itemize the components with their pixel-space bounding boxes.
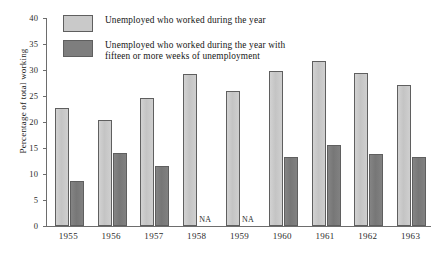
- legend-label: Unemployed who worked during the year wi…: [105, 40, 285, 61]
- x-tick-label-1959: 1959: [220, 232, 260, 241]
- bar-1955-fifteen-or-more-weeks: [70, 181, 84, 226]
- na-label-1959: NA: [242, 216, 254, 224]
- x-tick-label-1962: 1962: [348, 232, 388, 241]
- bar-1956-worked-during-year: [98, 120, 112, 226]
- y-tick-label: 20: [0, 118, 38, 127]
- bar-group-1963: [397, 18, 426, 226]
- y-tick-mark: [43, 226, 47, 227]
- legend-item-1: Unemployed who worked during the year: [63, 15, 285, 32]
- y-tick-label: 25: [0, 92, 38, 101]
- x-tick-label-1960: 1960: [262, 232, 302, 241]
- legend-swatch-dark: [63, 40, 93, 57]
- bar-1955-worked-during-year: [55, 108, 69, 226]
- y-tick-label: 0: [0, 222, 38, 231]
- y-axis-title: Percentage of total working: [18, 26, 28, 176]
- bar-group-1962: [354, 18, 383, 226]
- bar-1963-fifteen-or-more-weeks: [412, 157, 426, 226]
- x-tick-label-1963: 1963: [391, 232, 431, 241]
- y-tick-label: 30: [0, 66, 38, 75]
- bar-1960-worked-during-year: [269, 71, 283, 226]
- x-tick-label-1957: 1957: [134, 232, 174, 241]
- bar-group-1961: [312, 18, 341, 226]
- y-tick-label: 40: [0, 14, 38, 23]
- bar-1961-worked-during-year: [312, 61, 326, 226]
- bar-1958-worked-during-year: [183, 74, 197, 226]
- legend-label: Unemployed who worked during the year: [105, 15, 266, 26]
- x-tick-label-1958: 1958: [177, 232, 217, 241]
- x-tick-label-1955: 1955: [48, 232, 88, 241]
- y-tick-label: 10: [0, 170, 38, 179]
- bar-1959-worked-during-year: [226, 91, 240, 226]
- y-tick-label: 15: [0, 144, 38, 153]
- bar-1957-worked-during-year: [140, 98, 154, 226]
- y-tick-label: 35: [0, 40, 38, 49]
- y-tick-label: 5: [0, 196, 38, 205]
- x-tick-label-1956: 1956: [91, 232, 131, 241]
- bar-1962-fifteen-or-more-weeks: [369, 154, 383, 226]
- bar-1960-fifteen-or-more-weeks: [284, 157, 298, 226]
- legend-item-2: Unemployed who worked during the year wi…: [63, 40, 285, 61]
- bar-1956-fifteen-or-more-weeks: [113, 153, 127, 226]
- bar-1957-fifteen-or-more-weeks: [155, 166, 169, 226]
- chart-legend: Unemployed who worked during the yearUne…: [63, 15, 285, 69]
- chart-figure: Percentage of total working 051015202530…: [0, 0, 438, 256]
- x-tick-label-1961: 1961: [305, 232, 345, 241]
- bar-1961-fifteen-or-more-weeks: [327, 145, 341, 226]
- x-axis-line: [46, 226, 431, 227]
- bar-1962-worked-during-year: [354, 73, 368, 226]
- bar-1963-worked-during-year: [397, 85, 411, 226]
- legend-swatch-light: [63, 15, 93, 32]
- na-label-1958: NA: [199, 216, 211, 224]
